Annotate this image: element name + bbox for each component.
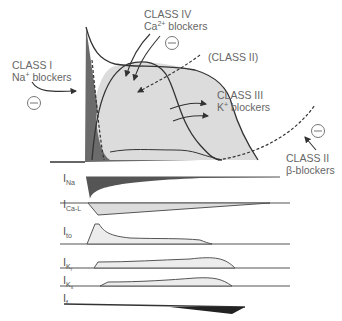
class2-beta-arrow [305, 137, 316, 150]
current-label-ina: INa [63, 172, 75, 186]
current-label-ito: Ito [63, 225, 72, 239]
class1-label: CLASS I Na+ blockers [12, 59, 72, 83]
trace-ito [60, 224, 290, 244]
trace-if [64, 304, 245, 314]
class4-label: CLASS IV Ca2+ blockers [144, 8, 207, 32]
current-label-ikr: IKr [63, 256, 72, 272]
trace-ina [86, 177, 280, 199]
inhibit-icon-class4 [166, 37, 179, 50]
current-label-ical: ICa-L [63, 198, 81, 212]
inhibit-icon-class2 [312, 125, 325, 138]
trace-ical [60, 203, 290, 215]
current-label-iks: IKs [63, 274, 73, 290]
trace-ikr [60, 258, 290, 268]
trace-iks [60, 278, 290, 286]
current-label-if: If [63, 292, 68, 306]
class2-paren-label: (CLASS II) [208, 51, 258, 63]
inhibit-icon-class1 [28, 97, 41, 110]
class3-label: CLASS III K+ blockers [217, 89, 270, 113]
class2-label: CLASS II β-blockers [286, 152, 335, 176]
class1-arrow [32, 82, 76, 91]
